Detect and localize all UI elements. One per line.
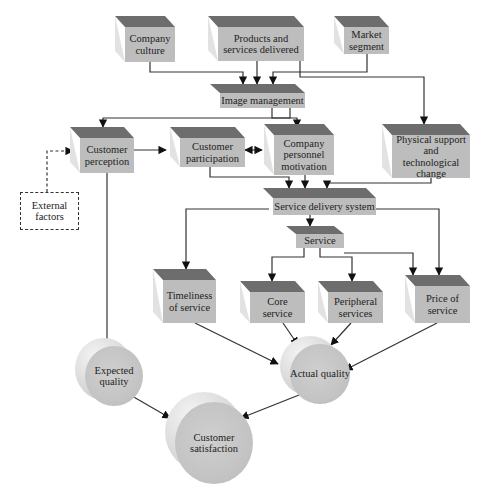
node-label: Peripheral services — [328, 292, 383, 323]
node-label: Actual quality — [290, 344, 350, 404]
node-label: Physical support and technological chang… — [392, 135, 470, 178]
node-physical-support: Physical support and technological chang… — [382, 124, 470, 178]
node-label: Price of service — [415, 286, 470, 323]
node-core-service: Core service — [240, 281, 305, 323]
node-label: Service delivery system — [273, 198, 376, 215]
node-products-services: Products and services delivered — [208, 16, 304, 61]
node-service-delivery-system: Service delivery system — [263, 188, 376, 215]
node-image-management: Image management — [210, 84, 305, 108]
node-peripheral-services: Peripheral services — [318, 281, 383, 323]
node-label: Market segment — [344, 27, 389, 54]
node-label: Company personnel motivation — [274, 135, 334, 175]
node-customer-satisfaction: Customer satisfaction — [165, 392, 253, 486]
node-expected-quality: Expected quality — [75, 338, 143, 406]
node-label: Products and services delivered — [218, 27, 304, 61]
node-customer-perception: Customer perception — [70, 127, 134, 173]
node-service: Service — [286, 226, 344, 248]
node-label: Image management — [220, 93, 305, 108]
node-label: Core service — [250, 292, 305, 323]
node-label: Service — [296, 234, 344, 248]
node-label: Company culture — [125, 27, 175, 62]
node-label: Customer satisfaction — [175, 402, 253, 484]
node-label: Expected quality — [85, 346, 143, 406]
node-price-of-service: Price of service — [405, 275, 470, 323]
node-market-segment: Market segment — [334, 16, 389, 54]
node-label: Timeliness of service — [163, 280, 216, 323]
node-personnel-motivation: Company personnel motivation — [264, 124, 334, 175]
node-customer-participation: Customer participation — [170, 127, 245, 167]
node-actual-quality: Actual quality — [280, 336, 352, 404]
node-label: Customer perception — [80, 138, 134, 173]
node-external-factors: External factors — [20, 192, 79, 230]
node-label: Customer participation — [180, 138, 245, 167]
node-timeliness: Timeliness of service — [153, 269, 216, 323]
node-company-culture: Company culture — [115, 16, 175, 62]
service-quality-diagram: Company culture Products and services de… — [0, 0, 484, 495]
